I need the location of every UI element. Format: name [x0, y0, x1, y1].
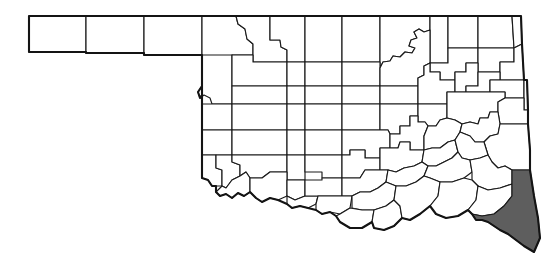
- county-washington[interactable]: [430, 16, 448, 63]
- county-cimarron[interactable]: [29, 16, 86, 52]
- county-blaine[interactable]: [287, 86, 305, 104]
- county-dewey[interactable]: [232, 86, 287, 104]
- county-beaver[interactable]: [144, 16, 202, 55]
- county-craig[interactable]: [478, 16, 514, 48]
- county-caddo[interactable]: [287, 130, 305, 155]
- county-washita[interactable]: [232, 130, 287, 155]
- county-noble[interactable]: [342, 62, 380, 86]
- oklahoma-county-map-figure: [0, 0, 547, 271]
- county-grady[interactable]: [305, 130, 342, 155]
- county-kingfisher[interactable]: [305, 86, 342, 104]
- county-garfield[interactable]: [305, 62, 342, 86]
- county-kay[interactable]: [342, 16, 380, 62]
- county-grant[interactable]: [305, 16, 342, 62]
- county-lincoln[interactable]: [342, 104, 380, 130]
- county-oklahoma[interactable]: [305, 104, 342, 130]
- county-layer: [29, 16, 540, 252]
- oklahoma-county-map-svg: [0, 0, 547, 271]
- county-canadian[interactable]: [287, 104, 305, 130]
- county-roger-mills[interactable]: [202, 104, 232, 130]
- county-custer[interactable]: [232, 104, 287, 130]
- county-logan[interactable]: [342, 86, 380, 104]
- county-major[interactable]: [287, 62, 305, 86]
- county-payne[interactable]: [380, 86, 418, 104]
- county-caddo-south[interactable]: [287, 155, 305, 180]
- county-ellis[interactable]: [198, 55, 232, 104]
- county-sequoyah[interactable]: [498, 98, 528, 124]
- county-texas[interactable]: [86, 16, 144, 53]
- county-nowata[interactable]: [448, 16, 478, 48]
- county-mcclain[interactable]: [305, 155, 342, 178]
- county-beckham[interactable]: [202, 130, 232, 155]
- county-stephens[interactable]: [305, 178, 342, 196]
